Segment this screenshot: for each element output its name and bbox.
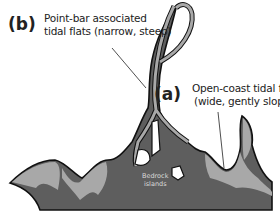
island-2 [135, 149, 150, 165]
label-a-line2: (wide, gently sloping) [194, 95, 280, 108]
label-a-letter: (a) [154, 86, 181, 103]
tidal-flats-diagram: (b) Point-bar associated tidal flats (na… [0, 0, 280, 218]
label-b-letter: (b) [8, 16, 36, 33]
label-b-line1: Point-bar associated [44, 12, 147, 25]
label-a-line1: Open-coast tidal flats [192, 82, 280, 95]
bedrock-line2: islands [142, 180, 168, 188]
bedrock-line1: Bedrock [142, 172, 168, 180]
bedrock-islands-label: Bedrock islands [142, 172, 168, 188]
leader-line-b [112, 48, 146, 88]
island-1 [152, 120, 160, 156]
leader-line-a [218, 112, 224, 168]
label-b-line2: tidal flats (narrow, steep) [44, 25, 171, 38]
